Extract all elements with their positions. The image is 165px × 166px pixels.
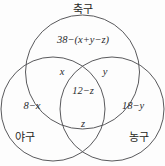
circle-baseball [1, 57, 105, 161]
circle-soccer [26, 15, 140, 129]
circle-basketball [60, 57, 164, 161]
venn-circles-group [0, 0, 165, 166]
venn-diagram-figure: 축구 야구 농구 38−(x+y−z) x y 12−z 8−x 18−y z [0, 0, 165, 166]
